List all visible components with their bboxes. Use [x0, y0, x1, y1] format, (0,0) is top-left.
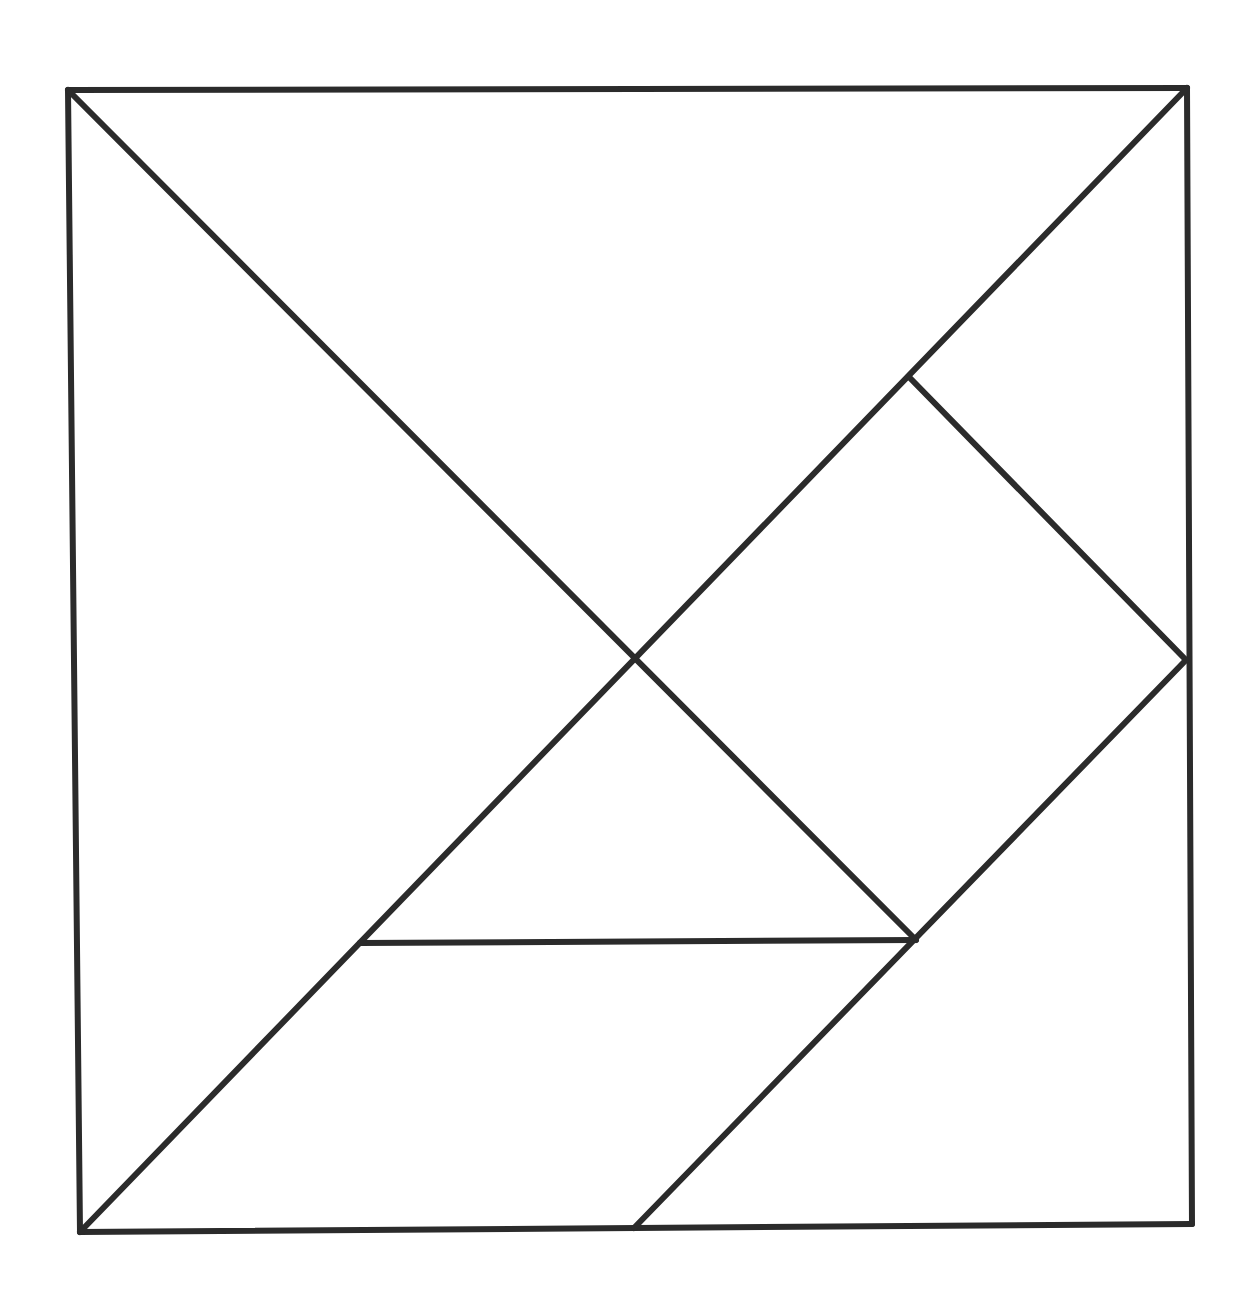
edge-tl-tr [68, 88, 1187, 90]
edge-pl_top-sq_bot [360, 940, 916, 943]
tangram-diagram [0, 0, 1257, 1303]
